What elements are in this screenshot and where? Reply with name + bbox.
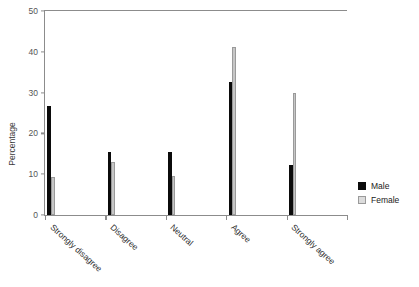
x-axis-tick-mark <box>105 215 106 220</box>
x-axis-label-agree: Agree <box>229 222 253 245</box>
x-axis-tick-mark <box>45 215 46 220</box>
x-axis-tick-mark <box>347 215 348 220</box>
bar-group <box>105 11 165 215</box>
x-axis-tick-mark <box>287 215 288 220</box>
y-axis-tick-label: 50 <box>29 7 38 16</box>
y-axis-tick-label: 0 <box>33 211 38 220</box>
legend-label-female: Female <box>371 196 399 205</box>
legend-swatch-female-icon <box>358 196 366 204</box>
bar-female-agree <box>232 47 236 216</box>
bar-female-strongly-disagree <box>51 177 55 215</box>
bar-group <box>45 11 105 215</box>
legend-swatch-male-icon <box>358 182 366 190</box>
y-axis-tick-label: 30 <box>29 88 38 97</box>
x-axis-tick-mark <box>226 215 227 220</box>
x-axis-label-strongly-agree: Strongly agree <box>290 222 338 266</box>
bar-female-strongly-agree <box>293 93 297 215</box>
bar-chart: Percentage 01020304050Strongly disagreeD… <box>0 0 419 287</box>
x-axis-tick-mark <box>166 215 167 220</box>
bar-female-neutral <box>172 176 176 215</box>
y-axis-tick-label: 40 <box>29 48 38 57</box>
plot-inner: 01020304050Strongly disagreeDisagreeNeut… <box>45 11 347 215</box>
y-axis-tick-label: 10 <box>29 170 38 179</box>
legend-label-male: Male <box>371 182 389 191</box>
bar-group <box>287 11 347 215</box>
bar-female-disagree <box>111 162 115 215</box>
legend: Male Female <box>358 182 399 209</box>
plot-area: 01020304050Strongly disagreeDisagreeNeut… <box>44 10 347 216</box>
x-axis-label-neutral: Neutral <box>169 222 196 248</box>
y-axis-title: Percentage <box>7 84 17 204</box>
x-axis-label-strongly-disagree: Strongly disagree <box>48 222 104 274</box>
bar-group <box>166 11 226 215</box>
y-axis-tick-label: 20 <box>29 129 38 138</box>
legend-item-male: Male <box>358 182 399 191</box>
x-axis-label-disagree: Disagree <box>108 222 140 252</box>
bar-group <box>226 11 286 215</box>
legend-item-female: Female <box>358 196 399 205</box>
